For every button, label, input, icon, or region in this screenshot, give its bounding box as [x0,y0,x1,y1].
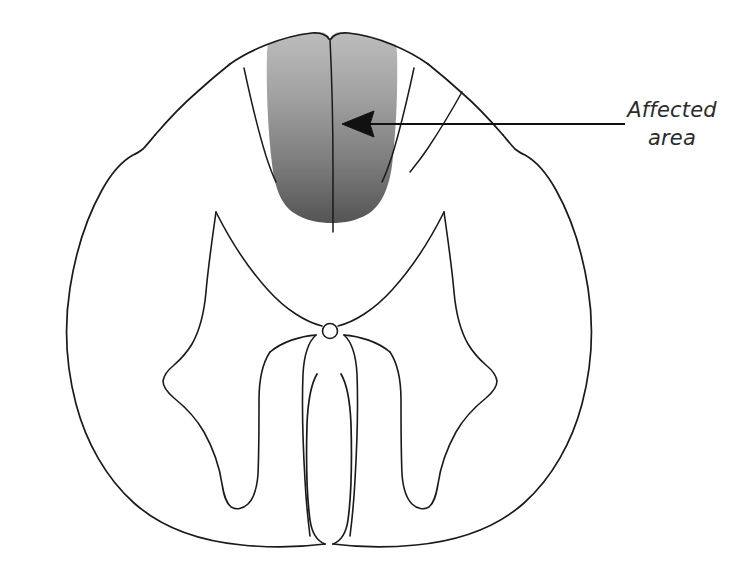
posterolateral-sulcus-right [410,92,462,172]
gray-matter-left-lateral [163,212,270,509]
figure-root: Affected area [0,0,730,574]
gray-matter-ventral-cleft-left [303,335,316,536]
gray-matter-butterfly [163,212,497,536]
anterior-median-fissure-left [307,374,325,544]
gray-matter-right-lateral [390,212,497,509]
central-canal-icon [323,324,338,339]
affected-area-label-line-2: area [616,124,728,152]
gray-matter-left-dorsal-medial [216,212,322,326]
anterior-median-fissure-right [333,374,351,544]
posterolateral-edge-left [155,64,230,135]
affected-area-label: Affected area [616,96,728,153]
affected-area-label-line-1: Affected [616,96,728,124]
gray-matter-right-dorsal-medial [338,212,444,326]
spinal-cord-diagram [0,0,730,574]
